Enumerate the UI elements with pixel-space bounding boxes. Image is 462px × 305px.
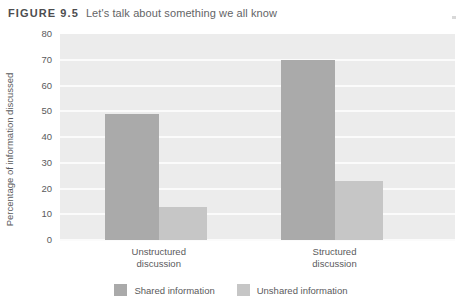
legend-item[interactable]: Shared information bbox=[114, 284, 214, 296]
y-tick-label: 10 bbox=[41, 209, 52, 219]
legend-label: Unshared information bbox=[257, 285, 348, 296]
y-axis-title-text: Percentage of information discussed bbox=[5, 72, 16, 226]
legend-swatch-icon bbox=[237, 284, 250, 296]
y-axis-ticks: 80706050403020100 bbox=[18, 26, 56, 248]
y-tick-label: 70 bbox=[41, 55, 52, 65]
bar-unstructured-unshared bbox=[159, 207, 207, 240]
legend-item[interactable]: Unshared information bbox=[237, 284, 348, 296]
figure-caption: FIGURE 9.5Let's talk about something we … bbox=[8, 6, 277, 20]
x-axis-labels: UnstructureddiscussionStructureddiscussi… bbox=[60, 246, 455, 280]
figure-label: FIGURE 9.5 bbox=[8, 7, 79, 19]
legend-swatch-icon bbox=[114, 284, 127, 296]
y-tick-label: 20 bbox=[41, 184, 52, 194]
bar-unstructured-shared bbox=[105, 114, 159, 240]
plot-area bbox=[60, 34, 455, 240]
y-tick-label: 0 bbox=[47, 235, 52, 245]
bar-structured-shared bbox=[281, 60, 335, 240]
x-axis-category-label: Unstructureddiscussion bbox=[89, 246, 229, 270]
y-axis-title: Percentage of information discussed bbox=[2, 54, 18, 244]
y-tick-label: 30 bbox=[41, 158, 52, 168]
x-axis-category-line: discussion bbox=[89, 258, 229, 270]
legend-label: Shared information bbox=[134, 285, 214, 296]
y-tick-label: 50 bbox=[41, 106, 52, 116]
gridline bbox=[60, 110, 455, 112]
gridline bbox=[60, 85, 455, 87]
x-axis-category-line: Structured bbox=[265, 246, 405, 258]
page-corner-mark bbox=[452, 16, 456, 19]
bar-structured-unshared bbox=[335, 181, 383, 240]
x-axis-category-line: Unstructured bbox=[89, 246, 229, 258]
gridline bbox=[60, 59, 455, 61]
y-tick-label: 80 bbox=[41, 29, 52, 39]
y-tick-label: 40 bbox=[41, 132, 52, 142]
chart-legend: Shared informationUnshared information bbox=[0, 284, 462, 296]
x-axis-category-line: discussion bbox=[265, 258, 405, 270]
bar-chart: Percentage of information discussed 8070… bbox=[0, 26, 462, 305]
figure-title: Let's talk about something we all know bbox=[86, 7, 277, 19]
x-axis-category-label: Structureddiscussion bbox=[265, 246, 405, 270]
y-tick-label: 60 bbox=[41, 81, 52, 91]
